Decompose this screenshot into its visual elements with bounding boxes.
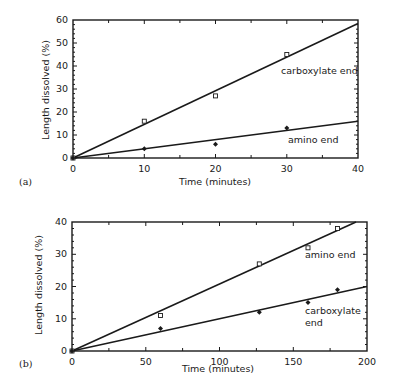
chart-a-xtick-30: 30 — [281, 163, 293, 174]
chart-b-amino-fit-line — [72, 222, 356, 351]
chart-a-ytick-30: 30 — [56, 83, 68, 94]
chart-a-ytick-50: 50 — [56, 37, 68, 48]
chart-b-xtick-200: 200 — [358, 356, 376, 367]
chart-b: 0 10 20 30 40 0 50 100 150 200 Time (min… — [19, 216, 376, 374]
chart-b-xtick-150: 150 — [284, 356, 302, 367]
chart-a-xlabel: Time (minutes) — [178, 176, 251, 187]
chart-a-ylabel: Length dissolved (%) — [40, 40, 51, 140]
chart-a-xtick-40: 40 — [352, 163, 364, 174]
chart-a-panel-label: (a) — [19, 176, 32, 187]
chart-a-ytick-60: 60 — [56, 14, 68, 25]
chart-a-ytick-10: 10 — [56, 129, 68, 140]
chart-a-ytick-0: 0 — [62, 152, 68, 163]
chart-b-carboxylate-label-line2: end — [305, 317, 323, 328]
chart-b-xtick-0: 0 — [69, 356, 75, 367]
chart-b-xtick-50: 50 — [140, 356, 152, 367]
chart-a: 0 10 20 30 40 50 60 0 10 20 30 40 Time (… — [19, 14, 364, 187]
chart-b-xlabel: Time (minutes) — [181, 363, 254, 374]
chart-a-xtick-0: 0 — [70, 163, 76, 174]
chart-b-x-ticks — [109, 222, 330, 351]
chart-b-ytick-0: 0 — [61, 345, 67, 356]
chart-b-ylabel: Length dissolved (%) — [33, 235, 44, 335]
chart-a-xtick-10: 10 — [138, 163, 150, 174]
chart-a-ytick-40: 40 — [56, 60, 68, 71]
chart-b-carboxylate-label-line1: carboxylate — [305, 305, 361, 316]
chart-b-carboxylate-points — [70, 287, 341, 353]
chart-b-panel-label: (b) — [19, 358, 33, 369]
chart-b-amino-label: amino end — [305, 249, 355, 260]
chart-b-ytick-40: 40 — [55, 216, 67, 227]
chart-a-amino-label: amino end — [288, 134, 338, 145]
chart-b-ytick-30: 30 — [55, 248, 67, 259]
chart-b-ytick-10: 10 — [55, 313, 67, 324]
chart-a-ytick-20: 20 — [56, 106, 68, 117]
chart-a-xtick-20: 20 — [209, 163, 221, 174]
chart-a-carboxylate-label: carboxylate end — [281, 65, 358, 76]
chart-b-ytick-20: 20 — [55, 281, 67, 292]
figure: 0 10 20 30 40 50 60 0 10 20 30 40 Time (… — [0, 0, 393, 386]
